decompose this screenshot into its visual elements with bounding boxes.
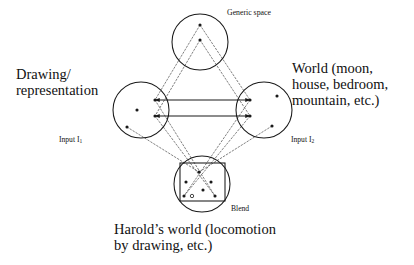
projection-line-9 — [199, 126, 272, 172]
dot-blend-space-2 — [209, 180, 212, 183]
dot-input-space-2-1 — [248, 98, 251, 101]
input-1-label: Input I1 — [59, 136, 82, 145]
dot-blend-space-3 — [201, 188, 204, 191]
dot-input-space-1-2 — [153, 98, 156, 101]
generic-space-label: Generic space — [227, 9, 271, 18]
dot-input-space-2-2 — [248, 114, 251, 117]
dot-input-space-2-3 — [270, 124, 273, 127]
blend-space-caption: Harold’s world (locomotionby drawing, et… — [114, 221, 276, 253]
circle-input-space-1 — [113, 82, 169, 138]
dot-blend-space-4 — [182, 194, 185, 197]
input-space-2-caption-line1: World (moon, — [292, 60, 373, 76]
circle-input-space-2 — [236, 82, 292, 138]
dot-generic-space-1 — [198, 38, 201, 41]
projection-lines-group — [127, 25, 272, 196]
dot-generic-space-0 — [198, 23, 201, 26]
input-space-2-caption-line3: mountain, etc.) — [292, 92, 379, 108]
dot-input-space-1-3 — [153, 114, 156, 117]
element-dots-group — [125, 23, 278, 197]
projection-line-7 — [184, 116, 250, 196]
projection-line-3 — [200, 40, 250, 116]
input-space-1-caption-line1: Drawing/ — [16, 66, 71, 82]
circle-generic-space — [172, 14, 228, 70]
projection-line-1 — [200, 25, 250, 100]
input-space-1-caption: Drawing/representation — [16, 66, 98, 98]
dot-blend-space-5 — [213, 194, 216, 197]
blend-space-caption-line2: by drawing, etc.) — [114, 237, 212, 253]
input-space-1-caption-line2: representation — [16, 82, 98, 98]
dot-blend-space-0 — [197, 170, 200, 173]
input-space-2-caption: World (moon,house, bedroom,mountain, etc… — [292, 60, 388, 109]
input-2-label-text: Input I — [291, 135, 311, 144]
circle-blend-space — [174, 156, 230, 212]
input-1-label-subscript: 1 — [79, 138, 82, 144]
blend-space-caption-line1: Harold’s world (locomotion — [114, 221, 276, 237]
dot-blend-space-1 — [184, 180, 187, 183]
input-2-label-subscript: 2 — [311, 138, 314, 144]
dot-input-space-1-1 — [125, 125, 128, 128]
conceptual-blending-diagram: Drawing/representation World (moon,house… — [0, 0, 414, 265]
open-dot-blend-space-0 — [190, 194, 193, 197]
input-space-2-caption-line2: house, bedroom, — [292, 76, 388, 92]
input-1-label-text: Input I — [59, 135, 79, 144]
input-2-label: Input I2 — [291, 136, 314, 145]
projection-line-0 — [155, 25, 200, 100]
projection-line-2 — [155, 40, 200, 116]
dot-input-space-2-0 — [275, 94, 278, 97]
dot-input-space-1-0 — [135, 108, 138, 111]
projection-line-8 — [127, 127, 199, 172]
projection-line-6 — [184, 100, 250, 196]
blend-label: Blend — [231, 205, 249, 214]
